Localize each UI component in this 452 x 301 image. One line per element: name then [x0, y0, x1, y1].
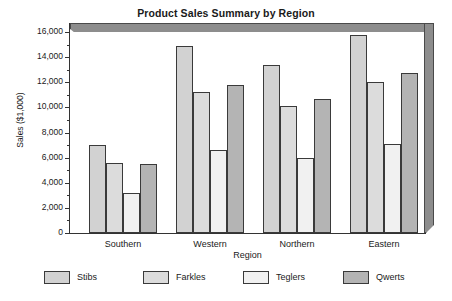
- chart-legend: StibsFarklesTeglersQwerts: [0, 268, 452, 301]
- x-tick-label-northern: Northern: [257, 239, 337, 249]
- bar-western-stibs: [176, 46, 193, 233]
- bar-southern-qwerts: [140, 164, 157, 233]
- y-tick-label: 14,000: [37, 52, 63, 61]
- y-tick-minor: [67, 170, 70, 171]
- bar-northern-teglers: [297, 158, 314, 233]
- legend-item-farkles[interactable]: Farkles: [143, 268, 206, 286]
- y-tick-label: 12,000: [37, 77, 63, 86]
- y-tick-label: 16,000: [37, 27, 63, 36]
- legend-label-teglers: Teglers: [276, 272, 305, 282]
- y-tick-label: 2,000: [42, 203, 63, 212]
- y-tick-minor: [67, 195, 70, 196]
- chart-title: Product Sales Summary by Region: [0, 7, 452, 19]
- legend-swatch-qwerts: [343, 271, 369, 284]
- legend-swatch-teglers: [243, 271, 269, 284]
- bar-western-teglers: [210, 150, 227, 233]
- bar-chart: Product Sales Summary by Region Sales ($…: [0, 0, 452, 301]
- y-axis-title: Sales ($1,000): [15, 70, 25, 170]
- x-tick-label-eastern: Eastern: [344, 239, 424, 249]
- bar-southern-stibs: [89, 145, 106, 233]
- bar-western-qwerts: [227, 85, 244, 233]
- y-tick-minor: [67, 45, 70, 46]
- legend-swatch-stibs: [44, 271, 70, 284]
- bar-eastern-teglers: [384, 144, 401, 233]
- legend-label-farkles: Farkles: [176, 272, 206, 282]
- legend-label-qwerts: Qwerts: [376, 272, 405, 282]
- bar-northern-qwerts: [314, 99, 331, 233]
- y-tick-label: 10,000: [37, 102, 63, 111]
- y-tick-major: [65, 233, 70, 234]
- bar-northern-farkles: [280, 106, 297, 233]
- bar-southern-teglers: [123, 193, 140, 233]
- x-tick-label-southern: Southern: [83, 239, 163, 249]
- y-tick-minor: [67, 70, 70, 71]
- y-tick-minor: [67, 120, 70, 121]
- legend-swatch-farkles: [143, 271, 169, 284]
- x-axis-line: [69, 233, 426, 234]
- y-tick-label: 8,000: [42, 128, 63, 137]
- y-tick-major: [65, 208, 70, 209]
- y-tick-label: 0: [58, 228, 63, 237]
- y-tick-major: [65, 32, 70, 33]
- bar-northern-stibs: [263, 65, 280, 233]
- backdrop-top-band: [70, 23, 425, 32]
- y-tick-minor: [67, 145, 70, 146]
- bar-eastern-farkles: [367, 82, 384, 233]
- legend-item-qwerts[interactable]: Qwerts: [343, 268, 405, 286]
- legend-item-teglers[interactable]: Teglers: [243, 268, 305, 286]
- bar-southern-farkles: [106, 163, 123, 233]
- y-tick-label: 6,000: [42, 153, 63, 162]
- backdrop-right-wall: [425, 23, 434, 233]
- y-tick-major: [65, 183, 70, 184]
- y-axis-line: [69, 23, 70, 234]
- y-tick-minor: [67, 220, 70, 221]
- plot-area: SouthernWesternNorthernEastern: [70, 32, 425, 233]
- bar-eastern-qwerts: [401, 73, 418, 233]
- legend-item-stibs[interactable]: Stibs: [44, 268, 97, 286]
- x-tick-label-western: Western: [170, 239, 250, 249]
- y-tick-major: [65, 158, 70, 159]
- bar-eastern-stibs: [350, 35, 367, 233]
- x-axis-title: Region: [70, 250, 425, 260]
- y-tick-label: 4,000: [42, 178, 63, 187]
- y-tick-major: [65, 82, 70, 83]
- y-tick-major: [65, 107, 70, 108]
- y-tick-minor: [67, 95, 70, 96]
- legend-label-stibs: Stibs: [77, 272, 97, 282]
- bar-western-farkles: [193, 92, 210, 233]
- y-tick-major: [65, 133, 70, 134]
- backdrop-top-left-bevel: [69, 22, 79, 33]
- y-tick-major: [65, 57, 70, 58]
